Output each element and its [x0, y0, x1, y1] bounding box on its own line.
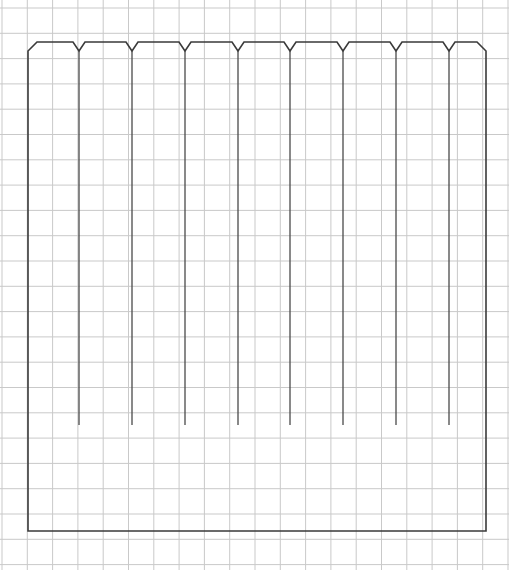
technical-drawing-svg: [0, 0, 509, 570]
drawing-canvas: [0, 0, 509, 570]
